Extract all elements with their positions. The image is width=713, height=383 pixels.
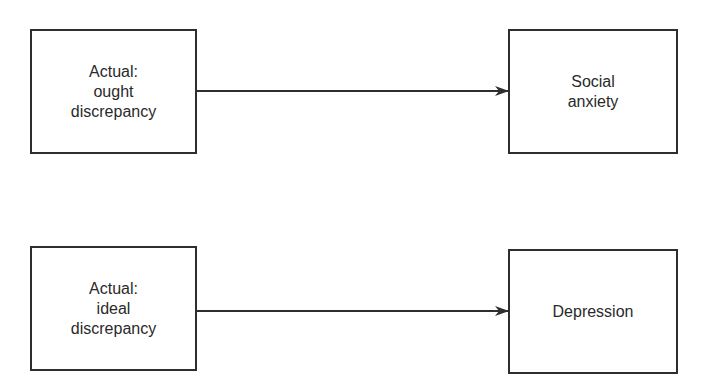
box-label: Actual: ought discrepancy — [71, 62, 156, 122]
box-actual-ought-discrepancy: Actual: ought discrepancy — [30, 29, 197, 154]
box-label: Social anxiety — [568, 72, 619, 112]
box-label: Actual: ideal discrepancy — [71, 279, 156, 339]
box-label: Depression — [553, 302, 634, 322]
box-social-anxiety: Social anxiety — [508, 29, 678, 154]
box-depression: Depression — [508, 249, 678, 374]
box-actual-ideal-discrepancy: Actual: ideal discrepancy — [30, 246, 197, 371]
